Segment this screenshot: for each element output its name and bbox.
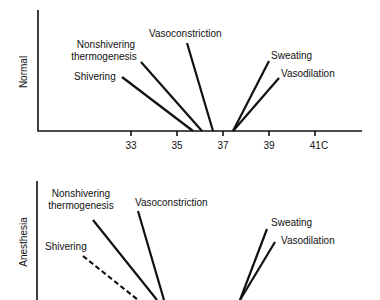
label-shivering-anesthesia: Shivering	[45, 241, 87, 252]
x-ticks: 33 35 37 39 41C	[125, 131, 328, 151]
tick-35: 35	[171, 140, 183, 151]
panel-normal: Normal 33 35 37 39 41C Vasoconstriction …	[18, 10, 362, 151]
label-vasoconstriction-anesthesia: Vasoconstriction	[135, 197, 208, 208]
y-label-normal: Normal	[18, 56, 29, 88]
label-sweating-normal: Sweating	[271, 50, 312, 61]
line-sweating-anesthesia	[240, 229, 267, 300]
line-shivering-anesthesia	[83, 256, 138, 300]
panel-anesthesia: Anesthesia Nonshivering thermogenesis Va…	[18, 181, 335, 300]
label-nonshivering-normal-1: Nonshivering	[77, 39, 135, 50]
tick-41c: 41C	[310, 140, 328, 151]
label-nonshivering-normal-2: thermogenesis	[71, 51, 137, 62]
label-sweating-anesthesia: Sweating	[271, 217, 312, 228]
label-vasoconstriction-normal: Vasoconstriction	[149, 28, 222, 39]
thermoregulation-diagram: Normal 33 35 37 39 41C Vasoconstriction …	[0, 0, 380, 300]
line-vasoconstriction-anesthesia	[138, 211, 164, 300]
tick-33: 33	[125, 140, 137, 151]
y-label-anesthesia: Anesthesia	[18, 217, 29, 267]
line-nonshivering-normal	[141, 62, 202, 131]
label-nonshivering-anesthesia-1: Nonshivering	[52, 188, 110, 199]
tick-39: 39	[263, 140, 275, 151]
line-shivering-normal	[122, 77, 193, 131]
line-vasodilation-anesthesia	[240, 242, 275, 300]
label-vasodilation-normal: Vasodilation	[281, 68, 335, 79]
label-nonshivering-anesthesia-2: thermogenesis	[48, 200, 114, 211]
label-vasodilation-anesthesia: Vasodilation	[281, 235, 335, 246]
line-nonshivering-anesthesia	[93, 220, 157, 300]
tick-37: 37	[217, 140, 229, 151]
label-shivering-normal: Shivering	[74, 71, 116, 82]
